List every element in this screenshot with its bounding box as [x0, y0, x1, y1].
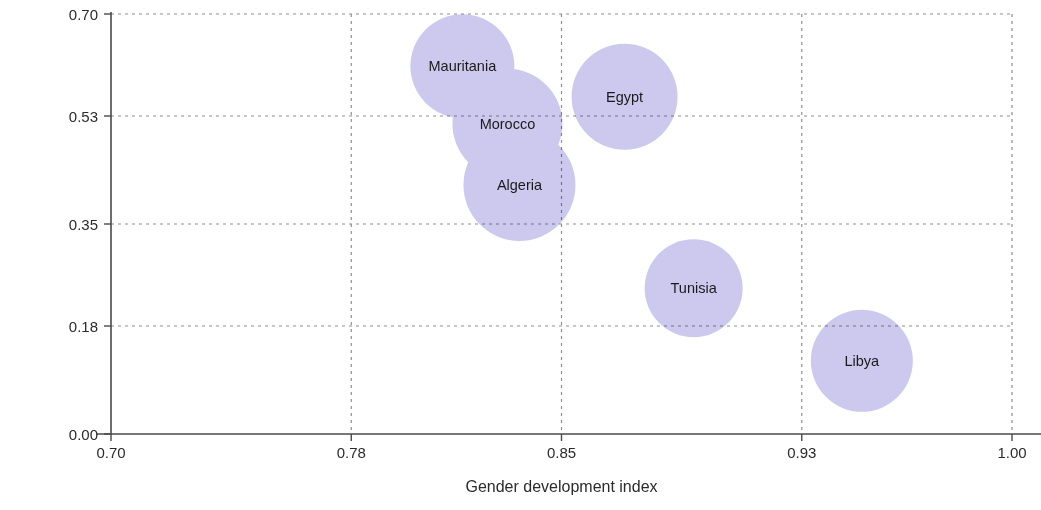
x-axis-tick-label: 1.00: [972, 444, 1041, 461]
x-axis-tick-label: 0.85: [522, 444, 602, 461]
bubble-tunisia[interactable]: [645, 239, 743, 337]
bubble-chart: 0.000.180.350.530.70 0.700.780.850.931.0…: [0, 0, 1041, 510]
bubble-algeria[interactable]: [463, 129, 575, 241]
x-axis-title: Gender development index: [111, 478, 1012, 496]
bubble-egypt[interactable]: [572, 44, 678, 150]
y-axis-tick-label: 0.18: [46, 319, 98, 334]
plot-area: [0, 0, 1041, 510]
bubble-group: [410, 14, 912, 412]
y-axis-tick-label: 0.53: [46, 109, 98, 124]
y-axis-tick-label: 0.00: [46, 427, 98, 442]
y-axis-tick-label: 0.70: [46, 7, 98, 22]
x-axis-tick-label: 0.70: [71, 444, 151, 461]
bubble-libya[interactable]: [811, 310, 913, 412]
x-axis-tick-label: 0.78: [311, 444, 391, 461]
y-axis-title-wrapper: Gender inequality index: [0, 212, 245, 238]
x-axis-tick-label: 0.93: [762, 444, 842, 461]
